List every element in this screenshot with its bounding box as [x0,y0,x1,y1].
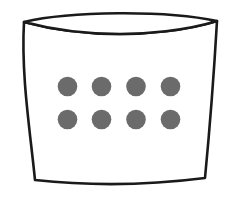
dot-r2-c3 [126,110,146,130]
dot-r1-c2 [92,77,112,97]
container-body [23,21,217,184]
dot-r1-c4 [161,77,181,97]
dot-r2-c1 [58,110,78,130]
scene-root: Hand-drawn outline of an open box or bas… [0,0,236,200]
dot-r2-c4 [161,110,181,130]
container-outline [23,13,217,184]
dot-r1-c3 [126,77,146,97]
dot-r1-c1 [58,77,78,97]
illustration-canvas [0,0,236,200]
dot-r2-c2 [92,110,112,130]
